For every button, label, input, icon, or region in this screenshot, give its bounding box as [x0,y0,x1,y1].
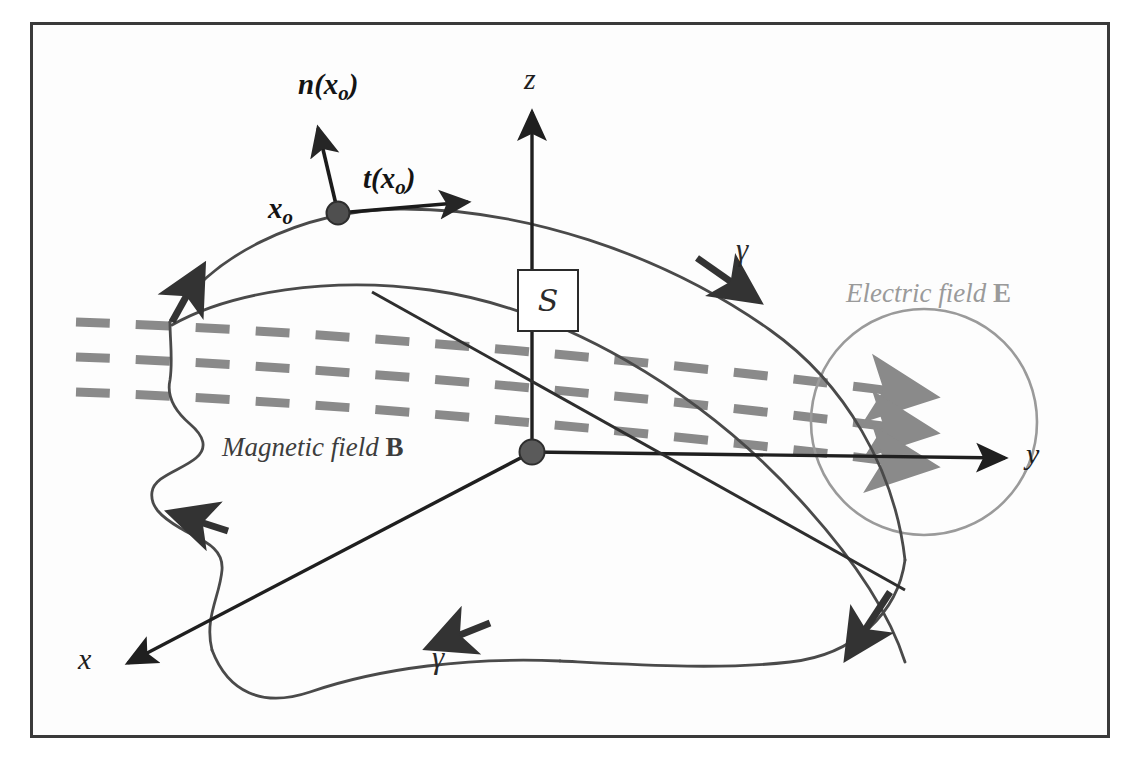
normal-vector-symbol: n [298,68,314,100]
surface-outline-face-profile [152,322,222,650]
origin-dot [520,440,545,465]
boundary-chord-line [372,292,905,590]
tangent-vector-symbol: t [363,162,371,194]
surface-S-letter: S [519,271,577,330]
surface-S-box: S [517,269,579,332]
magnetic-field-label: Magnetic field B [222,432,403,463]
point-xo-symbol: x [268,192,283,224]
electric-field-label: Electric field E [846,278,1011,309]
magnetic-field-text: Magnetic field [222,432,385,462]
electric-field-symbol: E [993,278,1011,308]
diagram-canvas [0,0,1142,771]
gamma-label-lower: γ [432,640,444,676]
magnetic-field-symbol: B [385,432,403,462]
y-axis-label: y [1026,437,1039,471]
normal-vector-label: n(xo) [298,68,358,106]
electric-field-region-circle [811,309,1037,535]
surface-outline-jaw [212,650,560,698]
z-axis-label: z [524,62,536,96]
figure-root: n(xo) t(xo) xo z y x S γ γ Magnetic fiel… [0,0,1142,771]
electric-field-text: Electric field [846,278,993,308]
x-axis-label: x [78,642,91,676]
point-xo-dot [327,202,350,225]
inner-surface-curve [172,285,905,662]
normal-vector-argument-sub: o [338,81,348,105]
point-xo-subscript: o [283,205,293,229]
tangent-vector-argument-sub: o [395,175,405,199]
direction-arrow-lower-right [848,592,890,656]
y-axis [532,452,1005,458]
normal-vector-argument: x [324,68,339,100]
tangent-vector-label: t(xo) [363,162,415,200]
point-xo-label: xo [268,192,293,230]
gamma-label-upper: γ [736,232,748,268]
tangent-vector-argument: x [381,162,396,194]
normal-vector-arrow [318,128,338,213]
